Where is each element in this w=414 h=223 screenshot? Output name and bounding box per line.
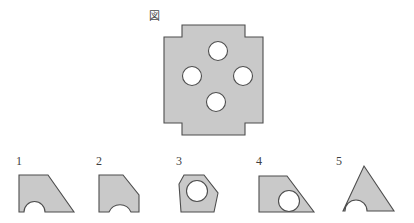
- hole-left: [183, 67, 202, 86]
- option-2[interactable]: 2: [80, 150, 160, 223]
- option-1-svg: [18, 172, 76, 214]
- option-5-svg: [338, 164, 396, 214]
- hole-right: [234, 67, 253, 86]
- option-1-label: 1: [16, 154, 22, 168]
- option-3-svg: [178, 172, 222, 214]
- options-row: 1 2 3: [0, 150, 414, 223]
- option-5-shape[interactable]: [338, 164, 396, 214]
- option-2-shape[interactable]: [98, 172, 144, 214]
- hole-top: [209, 42, 228, 61]
- option-4[interactable]: 4: [240, 150, 320, 223]
- option-3-label: 3: [176, 154, 182, 168]
- figure-stage: 図 1 2: [0, 0, 414, 223]
- option-2-label: 2: [96, 154, 102, 168]
- option-4-svg: [258, 172, 316, 214]
- option-3-hole: [187, 181, 208, 202]
- option-2-svg: [98, 172, 144, 214]
- figure-caption: 図: [149, 11, 160, 23]
- option-4-label: 4: [256, 154, 262, 168]
- option-3-shape[interactable]: [178, 172, 222, 214]
- option-5[interactable]: 5: [320, 150, 400, 223]
- hole-bottom: [207, 93, 226, 112]
- main-figure-svg: [163, 24, 265, 136]
- option-1[interactable]: 1: [0, 150, 80, 223]
- option-4-hole: [279, 191, 300, 212]
- main-figure: [163, 24, 265, 136]
- option-1-shape[interactable]: [18, 172, 76, 214]
- option-3[interactable]: 3: [160, 150, 240, 223]
- option-4-shape[interactable]: [258, 172, 316, 214]
